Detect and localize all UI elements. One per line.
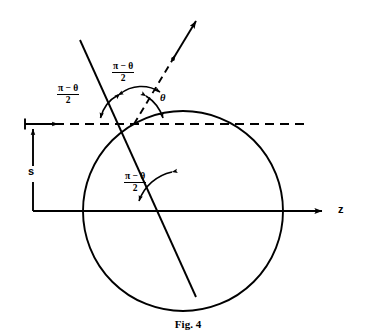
angle-label-upper-center: π − θ 2 [112, 62, 134, 84]
scattering-geometry-diagram [0, 0, 376, 336]
figure-container: π − θ 2 π − θ 2 π − θ 2 θ s z Fig. 4 [0, 0, 376, 336]
impact-parameter-label: s [28, 165, 34, 177]
angle-label-upper-left: π − θ 2 [57, 84, 79, 106]
angle-label-upper-center-denominator: 2 [112, 73, 134, 83]
angle-label-upper-left-denominator: 2 [57, 95, 79, 105]
figure-caption: Fig. 4 [0, 318, 376, 330]
angle-label-upper-center-numerator: π − θ [112, 62, 134, 73]
outgoing-ray-midpoint-dot [171, 57, 175, 61]
angle-label-center-bottom-numerator: π − θ [124, 172, 146, 183]
z-axis-label: z [338, 203, 344, 215]
angle-label-center-bottom: π − θ 2 [124, 172, 146, 194]
angle-label-center-bottom-denominator: 2 [124, 183, 146, 193]
outgoing-ray-solid-segment [173, 21, 196, 59]
incoming-trajectory-line [80, 40, 196, 297]
angle-label-upper-left-numerator: π − θ [57, 84, 79, 95]
theta-label: θ [160, 92, 165, 103]
